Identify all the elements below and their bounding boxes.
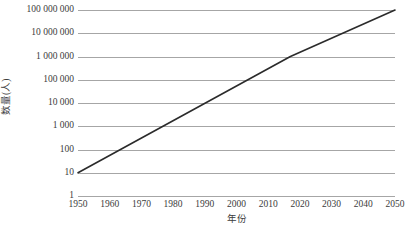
x-tick-label: 2000 xyxy=(227,200,246,210)
y-tick-label: 1 000 xyxy=(53,121,74,131)
y-tick-label: 10 000 xyxy=(48,98,74,108)
y-tick-label: 100 xyxy=(60,145,74,155)
y-axis-title: 数量(人) xyxy=(2,60,12,134)
x-axis-title: 年份 xyxy=(78,215,395,225)
x-tick-label: 1990 xyxy=(195,200,214,210)
plot-area xyxy=(78,10,395,196)
x-tick-label: 1950 xyxy=(69,200,88,210)
y-tick-label: 10 000 000 xyxy=(31,28,74,38)
x-tick-label: 1970 xyxy=(132,200,151,210)
x-tick-label: 1980 xyxy=(164,200,183,210)
y-tick-label: 1 000 000 xyxy=(36,52,74,62)
y-tick-label: 10 xyxy=(65,168,75,178)
y-tick-label: 100 000 000 xyxy=(27,5,75,15)
x-tick-label: 2030 xyxy=(322,200,341,210)
log-line-chart: 100 000 00010 000 0001 000 000100 00010 … xyxy=(0,0,405,238)
x-tick-label: 2040 xyxy=(354,200,373,210)
x-axis-tick-labels: 1950196019701980199020002010202020302040… xyxy=(78,200,395,214)
x-tick-label: 2010 xyxy=(259,200,278,210)
x-tick-label: 2020 xyxy=(290,200,309,210)
x-tick-label: 2050 xyxy=(386,200,405,210)
gridline xyxy=(78,196,395,197)
x-tick-label: 1960 xyxy=(100,200,119,210)
y-tick-label: 100 000 xyxy=(43,75,74,85)
data-series-line xyxy=(78,10,395,196)
